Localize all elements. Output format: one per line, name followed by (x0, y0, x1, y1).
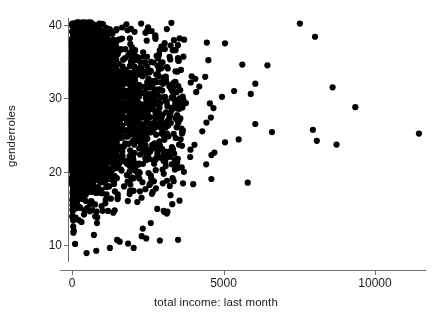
scatter-plot-canvas (0, 0, 432, 320)
x-tick-label-5000: 5000 (210, 276, 237, 290)
y-axis-label: genderroles (5, 105, 17, 167)
scatter-plot-figure: genderroles total income: last month 102… (0, 0, 432, 320)
y-tick-label-20: 20 (28, 165, 62, 179)
x-tick-label-0: 0 (69, 276, 76, 290)
y-axis-label-container: genderroles (0, 0, 22, 272)
y-tick-label-10: 10 (28, 238, 62, 252)
x-tick-label-10000: 10000 (358, 276, 391, 290)
y-tick-label-30: 30 (28, 91, 62, 105)
y-tick-label-40: 40 (28, 18, 62, 32)
x-axis-label: total income: last month (0, 296, 432, 308)
